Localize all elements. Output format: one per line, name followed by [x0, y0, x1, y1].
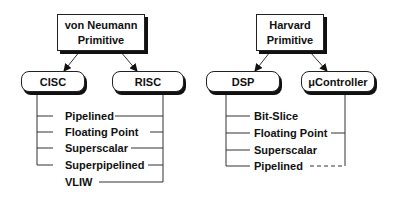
variant-superpipelined: Superpipelined: [65, 159, 144, 171]
root-label-line2: Primitive: [267, 33, 313, 48]
variant-floating-point: Floating Point: [65, 126, 138, 138]
class-label: DSP: [232, 76, 255, 88]
class-label: CISC: [40, 76, 66, 88]
arrow-vonneumann-to-risc: [120, 51, 137, 71]
von-neumann-primitive-box: von Neumann Primitive: [57, 14, 145, 51]
ucontroller-box: μController: [301, 71, 375, 92]
root-label-line2: Primitive: [78, 33, 124, 48]
arrow-harvard-to-dsp: [255, 52, 270, 71]
variant-bit-slice: Bit-Slice: [254, 110, 298, 122]
root-label-line1: von Neumann: [65, 18, 138, 33]
dsp-box: DSP: [206, 71, 280, 92]
harvard-primitive-box: Harvard Primitive: [256, 14, 324, 51]
variant-pipelined: Pipelined: [254, 160, 303, 172]
variant-superscalar: Superscalar: [254, 144, 317, 156]
risc-box: RISC: [112, 71, 184, 92]
architecture-taxonomy-diagram: von Neumann Primitive CISC RISC Pipeline…: [0, 0, 395, 197]
class-label: μController: [308, 76, 367, 88]
arrow-harvard-to-ucontroller: [310, 52, 327, 71]
root-label-line1: Harvard: [269, 18, 311, 33]
variant-superscalar: Superscalar: [65, 142, 128, 154]
arrow-vonneumann-to-cisc: [64, 51, 80, 71]
variant-vliw: VLIW: [65, 176, 93, 188]
class-label: RISC: [135, 76, 161, 88]
variant-pipelined: Pipelined: [65, 110, 114, 122]
cisc-box: CISC: [21, 71, 85, 92]
variant-floating-point: Floating Point: [254, 127, 327, 139]
